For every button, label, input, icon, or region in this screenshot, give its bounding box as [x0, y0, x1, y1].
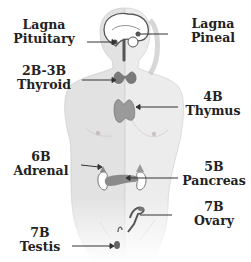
label-ovary: 7B Ovary [186, 200, 242, 228]
thymus-code: 4B [180, 90, 246, 104]
label-thymus: 4B Thymus [180, 90, 246, 118]
pancreas-name: Pancreas [180, 174, 248, 188]
adrenal-name: Adrenal [6, 164, 76, 178]
testis-name: Testis [10, 240, 70, 254]
adrenal-code: 6B [6, 150, 76, 164]
pineal-name: Pineal [180, 31, 246, 45]
thyroid-name: Thyroid [8, 78, 80, 92]
label-pineal: Lagna Pineal [180, 17, 246, 45]
pancreas-code: 5B [180, 160, 248, 174]
testis-gland [114, 241, 120, 249]
pituitary-name: Pituitary [8, 32, 80, 46]
label-adrenal: 6B Adrenal [6, 150, 76, 178]
label-thyroid: 2B-3B Thyroid [8, 64, 80, 92]
pituitary-code: Lagna [8, 18, 80, 32]
testis-code: 7B [10, 226, 70, 240]
endocrine-diagram: Lagna Pituitary Lagna Pineal 2B-3B Thyro… [0, 0, 251, 262]
pineal-gland [136, 32, 141, 37]
ovary-gland [138, 207, 144, 211]
ovary-name: Ovary [186, 214, 242, 228]
label-pancreas: 5B Pancreas [180, 160, 248, 188]
pineal-code: Lagna [180, 17, 246, 31]
label-testis: 7B Testis [10, 226, 70, 254]
thyroid-code: 2B-3B [8, 64, 80, 78]
label-pituitary: Lagna Pituitary [8, 18, 80, 46]
thymus-name: Thymus [180, 104, 246, 118]
ovary-code: 7B [186, 200, 242, 214]
